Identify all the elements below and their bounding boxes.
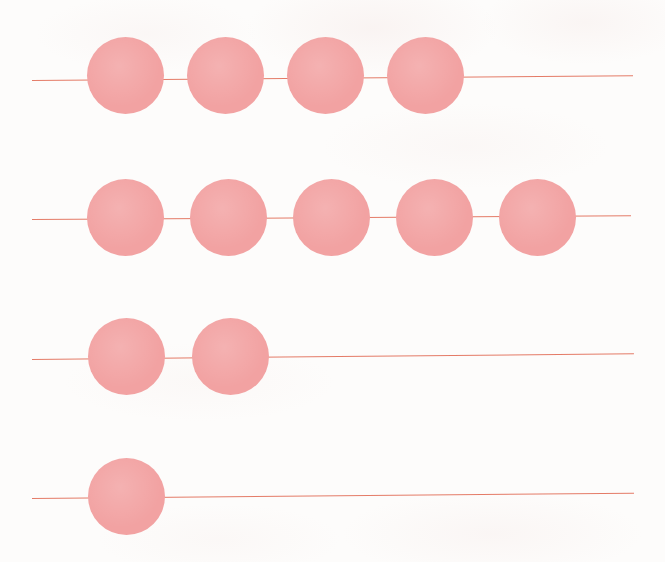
bead-circle [396, 179, 473, 256]
bead-circle [387, 37, 464, 114]
bead-circle [187, 37, 264, 114]
bead-circle [88, 458, 165, 535]
figure-canvas [0, 0, 665, 562]
bead-circle [287, 37, 364, 114]
bead-circle [192, 318, 269, 395]
bead-circle [88, 318, 165, 395]
bead-circle [87, 37, 164, 114]
bead-circle [293, 179, 370, 256]
bead-circle [190, 179, 267, 256]
bead-circle [499, 179, 576, 256]
bead-circle [87, 179, 164, 256]
